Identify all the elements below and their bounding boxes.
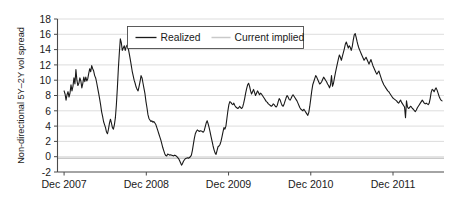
y-tick-label: 6 bbox=[45, 106, 51, 117]
y-tick-label: 2 bbox=[45, 136, 51, 147]
y-tick-label: 14 bbox=[40, 44, 52, 55]
x-tick-label: Dec 2009 bbox=[206, 178, 251, 190]
y-tick-label: 16 bbox=[40, 29, 52, 40]
y-tick-label: 12 bbox=[40, 60, 52, 71]
x-tick-label: Dec 2010 bbox=[288, 178, 333, 190]
y-tick-label: 10 bbox=[40, 75, 52, 86]
chart-legend: RealizedCurrent implied bbox=[128, 27, 305, 49]
line-chart: -2024681012141618 Dec 2007Dec 2008Dec 20… bbox=[0, 0, 457, 208]
x-tick-label: Dec 2007 bbox=[41, 178, 86, 190]
x-tick-label: Dec 2011 bbox=[371, 178, 416, 190]
y-tick-label: 4 bbox=[45, 121, 51, 132]
y-axis-title-text: Non-directional 5Y–2Y vol spread bbox=[16, 27, 26, 164]
y-tick-label: 18 bbox=[40, 14, 52, 25]
chart-figure: -2024681012141618 Dec 2007Dec 2008Dec 20… bbox=[0, 0, 457, 208]
y-tick-label: 0 bbox=[45, 151, 51, 162]
y-tick-label: 8 bbox=[45, 90, 51, 101]
legend-label-realized: Realized bbox=[161, 32, 201, 43]
y-axis-title: Non-directional 5Y–2Y vol spread bbox=[16, 27, 26, 164]
x-tick-label: Dec 2008 bbox=[124, 178, 169, 190]
legend-label-implied: Current implied bbox=[235, 32, 305, 43]
y-tick-label: -2 bbox=[42, 167, 51, 178]
